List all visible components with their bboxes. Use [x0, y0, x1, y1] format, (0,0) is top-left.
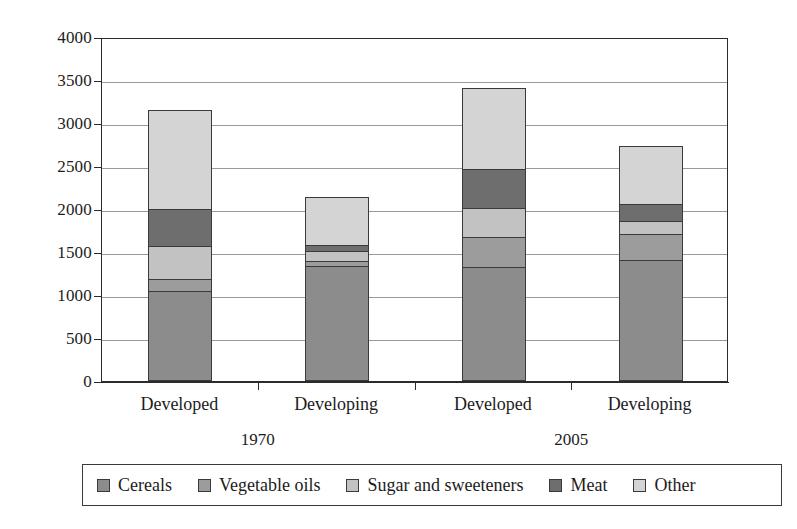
legend-label: Sugar and sweeteners [367, 475, 523, 495]
legend-swatch-icon [97, 479, 110, 492]
legend-label: Other [654, 475, 695, 495]
bar-segment[interactable] [619, 221, 683, 233]
legend-item[interactable]: Vegetable oils [198, 475, 320, 495]
legend-swatch-icon [198, 479, 211, 492]
y-axis-labels: 40003500300025002000150010005000 [34, 0, 92, 529]
bar-segment[interactable] [619, 234, 683, 260]
bar-stack[interactable] [305, 197, 369, 381]
bar-segment[interactable] [148, 279, 212, 291]
x-axis-tick [571, 382, 572, 390]
bar-segment[interactable] [305, 251, 369, 260]
x-axis-category-label: Developed [101, 394, 258, 414]
y-axis-tick [94, 210, 102, 211]
y-axis-tick-label: 0 [40, 373, 92, 390]
bar-segment[interactable] [148, 291, 212, 381]
bar-segment[interactable] [462, 237, 526, 266]
bar-segment[interactable] [462, 267, 526, 381]
y-axis-tick-label: 500 [40, 330, 92, 347]
bar-stack[interactable] [462, 88, 526, 381]
y-axis-tick-label: 3000 [40, 115, 92, 132]
legend-swatch-icon [549, 479, 562, 492]
chart-legend: CerealsVegetable oilsSugar and sweetener… [82, 464, 782, 506]
y-axis-tick-label: 3500 [40, 72, 92, 89]
y-axis-tick-label: 2000 [40, 201, 92, 218]
x-axis-category-label: Developing [571, 394, 728, 414]
bar-segment[interactable] [619, 204, 683, 221]
bar-stack[interactable] [148, 110, 212, 381]
legend-item[interactable]: Sugar and sweeteners [346, 475, 523, 495]
bar-segment[interactable] [462, 208, 526, 237]
legend-label: Vegetable oils [219, 475, 320, 495]
bar-segment[interactable] [148, 110, 212, 209]
legend-label: Cereals [118, 475, 172, 495]
legend-item[interactable]: Cereals [97, 475, 172, 495]
legend-swatch-icon [346, 479, 359, 492]
y-axis-tick [94, 38, 102, 39]
x-axis-group-label: 2005 [415, 430, 729, 449]
y-axis-tick [94, 124, 102, 125]
bar-stack[interactable] [619, 146, 683, 381]
y-axis-tick-label: 4000 [40, 29, 92, 46]
bar-segment[interactable] [619, 146, 683, 204]
legend-swatch-icon [633, 479, 646, 492]
bar-segment[interactable] [305, 266, 369, 381]
x-axis-category-label: Developed [415, 394, 572, 414]
bar-segment[interactable] [462, 88, 526, 170]
bar-segment[interactable] [462, 169, 526, 208]
x-axis-tick [258, 382, 259, 390]
legend-item[interactable]: Meat [549, 475, 607, 495]
stacked-bar-chart: 40003500300025002000150010005000 Develop… [0, 0, 797, 529]
bar-segment[interactable] [305, 197, 369, 244]
bar-segment[interactable] [619, 260, 683, 381]
y-axis-tick-label: 1000 [40, 287, 92, 304]
y-axis-tick-label: 2500 [40, 158, 92, 175]
gridline [102, 82, 727, 83]
x-axis-category-label: Developing [258, 394, 415, 414]
legend-item[interactable]: Other [633, 475, 695, 495]
y-axis-tick [94, 339, 102, 340]
bar-segment[interactable] [148, 209, 212, 246]
y-axis-tick [94, 81, 102, 82]
x-axis-group-label: 1970 [101, 430, 415, 449]
legend-label: Meat [570, 475, 607, 495]
y-axis-tick-label: 1500 [40, 244, 92, 261]
y-axis-tick [94, 382, 102, 383]
bar-segment[interactable] [148, 246, 212, 279]
y-axis-tick [94, 167, 102, 168]
y-axis-tick [94, 296, 102, 297]
y-axis-tick [94, 253, 102, 254]
plot-area [101, 38, 728, 382]
x-axis-tick [415, 382, 416, 390]
